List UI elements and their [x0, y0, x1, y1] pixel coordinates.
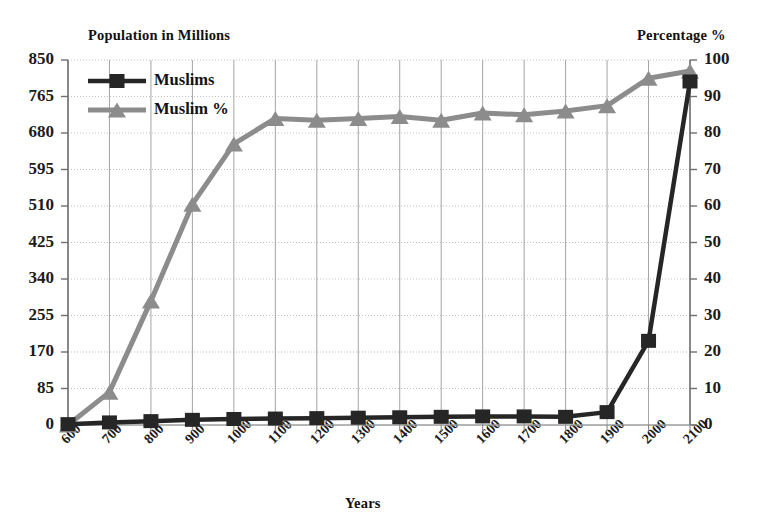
data-point-marker: [102, 415, 117, 429]
series-line-muslim-: [68, 71, 690, 425]
data-point-marker: [143, 414, 158, 428]
data-point-marker: [185, 413, 200, 427]
legend-label-muslim-percent: Muslim %: [154, 99, 229, 119]
data-point-marker: [600, 405, 615, 419]
data-point-marker: [226, 412, 241, 426]
data-point-marker: [351, 411, 366, 425]
legend-label-muslims: Muslims: [154, 70, 215, 90]
data-point-marker: [641, 334, 656, 348]
data-point-marker: [558, 410, 573, 424]
data-point-marker: [61, 417, 76, 431]
chart-figure: Population in Millions Percentage % Year…: [0, 0, 761, 523]
data-point-marker: [517, 409, 532, 423]
data-point-marker: [309, 411, 324, 425]
data-point-marker: [392, 410, 407, 424]
data-point-marker: [475, 409, 490, 423]
data-point-marker: [683, 74, 698, 88]
legend-marker-muslims: [110, 74, 125, 88]
plot-canvas: [0, 0, 761, 523]
data-point-marker: [434, 410, 449, 424]
data-point-marker: [268, 412, 283, 426]
data-point-marker: [100, 385, 118, 400]
data-point-marker: [142, 293, 160, 308]
